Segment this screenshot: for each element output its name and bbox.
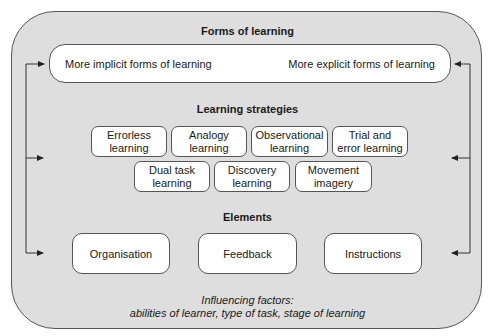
strategy-label: learning — [107, 142, 151, 155]
strategy-discovery: Discoverylearning — [214, 161, 290, 192]
element-organisation: Organisation — [72, 233, 170, 274]
strategy-dual-task: Dual tasklearning — [134, 161, 210, 192]
strategy-trial-and-error: Trial anderror learning — [332, 126, 408, 157]
strategy-label: Errorless — [107, 129, 151, 142]
strategy-observational: Observationallearning — [251, 126, 328, 157]
elements-title: Elements — [0, 211, 495, 223]
element-feedback: Feedback — [198, 233, 297, 274]
strategies-title: Learning strategies — [0, 103, 495, 115]
strategy-label: Dual task — [149, 164, 195, 177]
strategy-label: learning — [228, 177, 276, 190]
influencing-factors-list: abilities of learner, type of task, stag… — [0, 307, 495, 320]
influencing-factors-title: Influencing factors: — [0, 294, 495, 307]
strategy-errorless: Errorlesslearning — [91, 126, 167, 157]
strategy-analogy: Analogylearning — [171, 126, 247, 157]
explicit-label: More explicit forms of learning — [288, 58, 435, 70]
strategy-label: Trial and — [337, 129, 402, 142]
element-instructions: Instructions — [324, 233, 422, 274]
strategy-label: Movement — [308, 164, 359, 177]
forms-title: Forms of learning — [0, 25, 495, 37]
implicit-label: More implicit forms of learning — [65, 58, 212, 70]
strategy-label: Observational — [256, 129, 324, 142]
strategy-label: error learning — [337, 142, 402, 155]
forms-continuum-box: More implicit forms of learning More exp… — [49, 44, 451, 83]
strategy-movement-imagery: Movementimagery — [295, 161, 372, 192]
strategy-label: imagery — [308, 177, 359, 190]
strategy-label: learning — [189, 142, 229, 155]
strategy-label: learning — [149, 177, 195, 190]
strategy-label: learning — [256, 142, 324, 155]
strategy-label: Discovery — [228, 164, 276, 177]
strategy-label: Analogy — [189, 129, 229, 142]
